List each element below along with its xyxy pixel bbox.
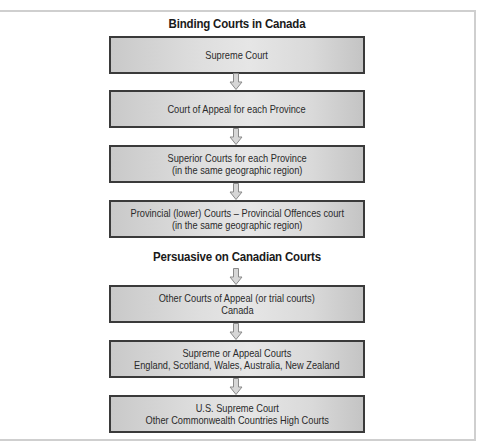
box-label: Provincial (lower) Courts – Provincial O… — [130, 207, 343, 219]
box-sublabel: Canada — [221, 304, 253, 316]
box-label: U.S. Supreme Court — [195, 402, 278, 414]
box-label: Superior Courts for each Province — [167, 152, 306, 164]
arrow-down-icon — [229, 73, 243, 90]
box-sublabel: England, Scotland, Wales, Australia, New… — [134, 359, 340, 371]
arrow-down-icon — [229, 128, 243, 145]
box-provincial-courts: Provincial (lower) Courts – Provincial O… — [109, 200, 365, 238]
arrow-down-icon — [229, 183, 243, 200]
box-sublabel: Other Commonwealth Countries High Courts — [145, 414, 328, 426]
box-label: Supreme Court — [206, 49, 269, 61]
heading-binding-courts: Binding Courts in Canada — [119, 17, 355, 31]
box-court-of-appeal-province: Court of Appeal for each Province — [109, 90, 365, 128]
box-label: Court of Appeal for each Province — [168, 103, 306, 115]
box-other-courts-of-appeal: Other Courts of Appeal (or trial courts)… — [109, 285, 365, 323]
arrow-down-icon — [229, 378, 243, 395]
arrow-down-icon — [229, 323, 243, 340]
box-supreme-or-appeal-courts-commonwealth: Supreme or Appeal Courts England, Scotla… — [109, 340, 365, 378]
box-sublabel: (in the same geographic region) — [172, 219, 302, 231]
box-superior-courts: Superior Courts for each Province (in th… — [109, 145, 365, 183]
box-label: Other Courts of Appeal (or trial courts) — [159, 292, 315, 304]
box-label: Supreme or Appeal Courts — [183, 347, 292, 359]
box-supreme-court: Supreme Court — [109, 36, 365, 74]
box-sublabel: (in the same geographic region) — [172, 164, 302, 176]
arrow-down-icon — [229, 268, 243, 285]
heading-persuasive-courts: Persuasive on Canadian Courts — [119, 250, 355, 264]
box-us-supreme-court: U.S. Supreme Court Other Commonwealth Co… — [109, 395, 365, 433]
